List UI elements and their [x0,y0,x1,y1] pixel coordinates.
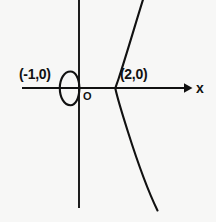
figure-background [0,0,216,222]
graph-figure [0,0,216,222]
label-origin: O [83,90,92,102]
label-point-two-zero: (2,0) [120,66,147,82]
label-point-minus-one-zero: (-1,0) [19,66,51,82]
label-x-axis: x [196,80,204,96]
